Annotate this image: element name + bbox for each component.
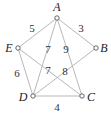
edge-e-d (18, 48, 33, 96)
edge-weight-a-b: 3 (78, 22, 84, 34)
node-label-e: E (4, 41, 13, 55)
node-label-a: A (52, 0, 61, 14)
edge-weight-e-d: 6 (14, 67, 20, 79)
edge-a-d (33, 18, 57, 96)
node-label-d: D (18, 90, 28, 104)
edge-weight-b-d: 8 (62, 65, 68, 77)
node-label-c: C (87, 90, 96, 104)
node-a-circle-icon (55, 16, 59, 20)
edge-weight-e-c: 7 (45, 64, 51, 76)
node-label-b: B (100, 41, 108, 55)
edge-weight-a-d: 7 (45, 43, 51, 55)
edge-weight-a-c: 9 (63, 43, 69, 55)
node-b-circle-icon (94, 46, 98, 50)
weighted-graph-diagram: 53797864 ABCDE (0, 0, 111, 113)
node-c-circle-icon (80, 94, 84, 98)
edge-a-e (18, 18, 57, 48)
edge-weight-d-c: 4 (54, 101, 60, 113)
node-e-circle-icon (16, 46, 20, 50)
graph-nodes (16, 16, 98, 98)
node-d-circle-icon (31, 94, 35, 98)
edge-weight-a-e: 5 (29, 22, 35, 34)
